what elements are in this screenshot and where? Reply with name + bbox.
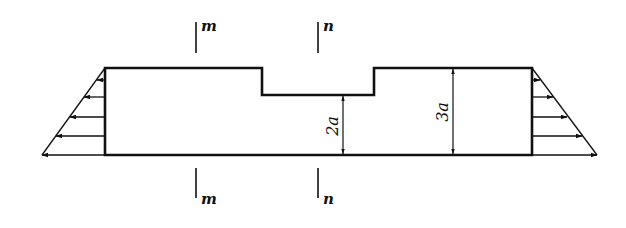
diagram-canvas: m m n n 2a 3a bbox=[0, 0, 626, 228]
section-m-bottom-label: m bbox=[201, 190, 217, 208]
section-n: n n bbox=[318, 17, 334, 208]
right-distributed-load bbox=[532, 68, 597, 155]
dimension-2a: 2a bbox=[323, 96, 343, 154]
left-distributed-load bbox=[42, 68, 105, 155]
bar-body-outline bbox=[105, 68, 532, 155]
section-m: m m bbox=[196, 17, 217, 208]
section-n-bottom-label: n bbox=[323, 190, 334, 208]
bar-diagram: m m n n 2a 3a bbox=[0, 0, 626, 228]
section-m-top-label: m bbox=[201, 17, 217, 35]
dimension-2a-label: 2a bbox=[323, 116, 342, 137]
dimension-3a-label: 3a bbox=[433, 102, 452, 122]
dimension-3a: 3a bbox=[433, 69, 453, 154]
section-n-top-label: n bbox=[323, 17, 334, 35]
